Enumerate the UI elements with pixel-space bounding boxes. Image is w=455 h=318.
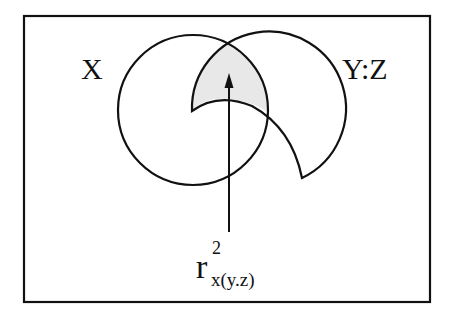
annotation-subscript: x(y.z) <box>211 269 255 291</box>
annotation-r: r <box>196 248 208 285</box>
label-x: X <box>81 52 103 85</box>
label-y-z: Y:Z <box>342 52 388 85</box>
annotation-superscript: 2 <box>212 238 221 258</box>
venn-diagram: X Y:Z r 2 x(y.z) <box>0 0 455 318</box>
